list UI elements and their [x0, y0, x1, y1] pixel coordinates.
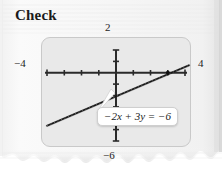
equation-callout: −2x + 3y = −6: [97, 107, 178, 126]
axis-label-top: 2: [105, 22, 111, 33]
screenshot-root: Check: [0, 0, 222, 174]
coordinate-plane: [41, 37, 191, 147]
axis-label-right: 4: [198, 58, 204, 69]
axis-label-bottom: −6: [103, 150, 115, 161]
page-title: Check: [15, 8, 57, 23]
equation-text: −2x + 3y = −6: [104, 110, 171, 122]
axis-label-left: −4: [14, 58, 26, 69]
